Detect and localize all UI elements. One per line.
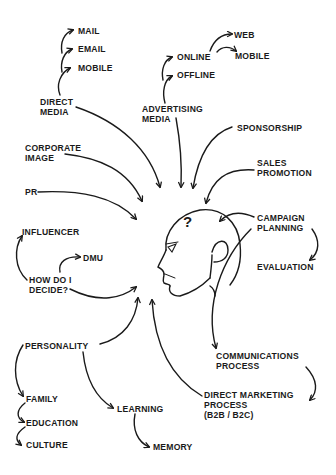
question-mark-icon: ? (183, 213, 192, 230)
node-direct-media: DIRECT MEDIA (40, 97, 73, 117)
node-label: OFFLINE (177, 70, 215, 80)
node-campaign-planning: CAMPAIGN PLANNING (257, 213, 305, 233)
node-label: SPONSORSHIP (237, 123, 302, 133)
node-pr: PR (25, 187, 37, 197)
node-label: PERSONALITY (25, 341, 88, 351)
node-communications-process: COMMUNICATIONS PROCESS (216, 351, 299, 371)
node-label: DIRECT (40, 97, 73, 107)
node-culture: CULTURE (26, 440, 68, 450)
node-label: DECIDE? (29, 285, 72, 295)
node-label: PROCESS (204, 400, 294, 410)
node-label: PLANNING (257, 223, 305, 233)
node-label: EVALUATION (257, 262, 314, 272)
node-how-do-i-decide: HOW DO I DECIDE? (29, 275, 72, 295)
node-label: CAMPAIGN (257, 213, 305, 223)
node-label: FAMILY (26, 394, 58, 404)
node-label: SALES (257, 158, 312, 168)
node-mobile-online: MOBILE (235, 51, 270, 61)
node-online: ONLINE (177, 52, 211, 62)
node-education: EDUCATION (26, 418, 78, 428)
node-label: MOBILE (235, 51, 270, 61)
node-label: EMAIL (78, 44, 106, 54)
node-label: IMAGE (25, 153, 81, 163)
node-label: COMMUNICATIONS (216, 351, 299, 361)
node-label: DIRECT MARKETING (204, 390, 294, 400)
node-label: CORPORATE (25, 143, 81, 153)
node-label: PR (25, 187, 37, 197)
node-sponsorship: SPONSORSHIP (237, 123, 302, 133)
node-label: PROMOTION (257, 168, 312, 178)
node-email: EMAIL (78, 44, 106, 54)
node-offline: OFFLINE (177, 70, 215, 80)
node-label: HOW DO I (29, 275, 72, 285)
node-label: (B2B / B2C) (204, 410, 294, 420)
node-label: ONLINE (177, 52, 211, 62)
node-corporate-image: CORPORATE IMAGE (25, 143, 81, 163)
node-personality: PERSONALITY (25, 341, 88, 351)
node-learning: LEARNING (117, 404, 163, 414)
node-label: MEDIA (142, 114, 203, 124)
node-advertising-media: ADVERTISING MEDIA (142, 104, 203, 124)
head-profile-icon (158, 210, 240, 296)
node-label: DMU (83, 253, 103, 263)
node-mobile-direct: MOBILE (78, 63, 113, 73)
node-memory: MEMORY (153, 442, 193, 452)
node-label: MEMORY (153, 442, 193, 452)
node-mail: MAIL (78, 26, 100, 36)
node-label: WEB (234, 30, 255, 40)
node-label: EDUCATION (26, 418, 78, 428)
node-sales-promotion: SALES PROMOTION (257, 158, 312, 178)
node-label: LEARNING (117, 404, 163, 414)
node-label: MEDIA (40, 107, 73, 117)
mind-map-diagram: ? MAIL EMAIL MOBILE DIRECT MEDIA WEB ONL… (0, 0, 336, 475)
node-influencer: INFLUENCER (22, 227, 79, 237)
node-family: FAMILY (26, 394, 58, 404)
node-label: MOBILE (78, 63, 113, 73)
node-label: ADVERTISING (142, 104, 203, 114)
node-label: MAIL (78, 26, 100, 36)
node-direct-marketing-process: DIRECT MARKETING PROCESS (B2B / B2C) (204, 390, 294, 420)
node-evaluation: EVALUATION (257, 262, 314, 272)
node-web: WEB (234, 30, 255, 40)
node-label: INFLUENCER (22, 227, 79, 237)
node-label: PROCESS (216, 361, 299, 371)
node-dmu: DMU (83, 253, 103, 263)
node-label: CULTURE (26, 440, 68, 450)
